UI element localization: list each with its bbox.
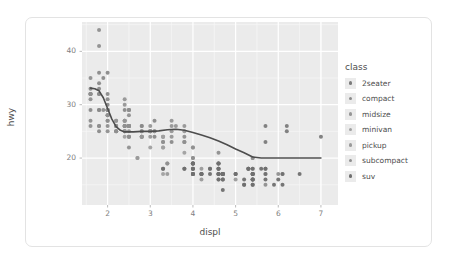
legend-item-compact[interactable]: compact xyxy=(345,92,394,106)
legend-item-label: subcompact xyxy=(362,156,408,165)
x-tick-label: 5 xyxy=(226,209,246,218)
legend-item-label: midsize xyxy=(362,110,391,119)
legend-key-swatch xyxy=(345,78,356,89)
legend-title: class xyxy=(345,62,367,72)
legend-item-pickup[interactable]: pickup xyxy=(345,138,387,152)
x-tick-label: 4 xyxy=(183,209,203,218)
y-tick-label: 30 xyxy=(50,100,76,109)
legend-point-icon xyxy=(349,97,352,100)
legend-item-label: 2seater xyxy=(362,79,391,88)
legend-key-swatch xyxy=(345,155,356,166)
legend-item-label: compact xyxy=(362,94,394,103)
legend-point-icon xyxy=(349,112,352,115)
legend-key-swatch xyxy=(345,124,356,135)
legend-key-swatch xyxy=(345,93,356,104)
x-tick-label: 7 xyxy=(311,209,331,218)
legend-key-swatch xyxy=(345,140,356,151)
legend-item-minivan[interactable]: minivan xyxy=(345,123,392,137)
y-axis-title: hwy xyxy=(6,87,16,147)
legend-item-subcompact[interactable]: subcompact xyxy=(345,154,408,168)
legend-item-suv[interactable]: suv xyxy=(345,169,375,183)
x-axis-title: displ xyxy=(0,227,420,237)
legend-item-label: minivan xyxy=(362,125,392,134)
x-tick-label: 3 xyxy=(140,209,160,218)
legend-point-icon xyxy=(349,159,352,162)
legend-item-2seater[interactable]: 2seater xyxy=(345,76,391,90)
y-tick-label: 40 xyxy=(50,46,76,55)
x-tick-label: 2 xyxy=(98,209,118,218)
legend-item-midsize[interactable]: midsize xyxy=(345,107,391,121)
y-tick-label: 20 xyxy=(50,153,76,162)
legend-key-swatch xyxy=(345,171,356,182)
x-tick-label: 6 xyxy=(268,209,288,218)
legend-point-icon xyxy=(349,128,352,131)
legend-item-label: suv xyxy=(362,172,375,181)
legend-point-icon xyxy=(349,174,352,177)
legend-key-swatch xyxy=(345,109,356,120)
legend-point-icon xyxy=(349,81,352,84)
legend-point-icon xyxy=(349,143,352,146)
legend-item-label: pickup xyxy=(362,141,387,150)
